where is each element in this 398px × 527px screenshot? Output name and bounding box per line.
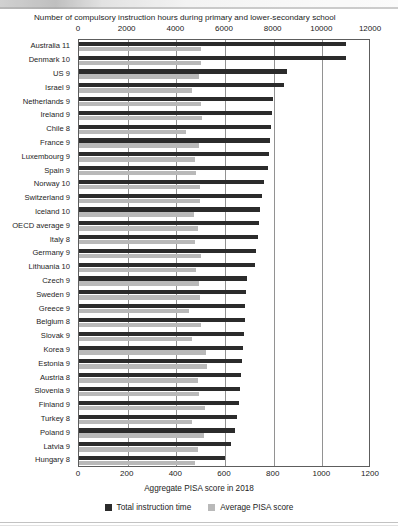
bar-average-pisa-score	[79, 254, 201, 258]
bar-average-pisa-score	[79, 47, 201, 51]
bar-total-instruction-time	[79, 56, 346, 60]
bar-row	[79, 164, 369, 178]
bottom-tick-0: 0	[76, 469, 80, 478]
bar-average-pisa-score	[79, 295, 200, 299]
category-label: OECD average 9	[12, 221, 70, 230]
chart-figure: Number of compulsory instruction hours d…	[0, 0, 398, 527]
bar-row	[79, 371, 369, 385]
bar-average-pisa-score	[79, 240, 195, 244]
bar-average-pisa-score	[79, 116, 202, 120]
bar-row	[79, 302, 369, 316]
bar-total-instruction-time	[79, 111, 272, 115]
category-label: Israel 9	[45, 83, 70, 92]
category-label: Chile 8	[46, 124, 70, 133]
category-label: Lithuania 10	[29, 262, 70, 271]
bar-total-instruction-time	[79, 125, 271, 129]
bar-row	[79, 316, 369, 330]
legend-label: Average PISA score	[220, 503, 293, 512]
bar-row	[79, 137, 369, 151]
bar-average-pisa-score	[79, 88, 192, 92]
category-label: Italy 8	[50, 235, 70, 244]
bar-row	[79, 178, 369, 192]
legend-item: Total instruction time	[105, 503, 192, 512]
bar-row	[79, 261, 369, 275]
bar-row	[79, 413, 369, 427]
bar-average-pisa-score	[79, 461, 195, 465]
bar-total-instruction-time	[79, 249, 256, 253]
bar-row	[79, 206, 369, 220]
category-label: Sweden 9	[36, 290, 70, 299]
category-label: Finland 9	[39, 400, 70, 409]
bar-total-instruction-time	[79, 359, 242, 363]
bar-total-instruction-time	[79, 152, 269, 156]
bar-total-instruction-time	[79, 304, 245, 308]
top-tick-2000: 2000	[118, 24, 136, 33]
bar-average-pisa-score	[79, 130, 186, 134]
bar-average-pisa-score	[79, 378, 198, 382]
bar-average-pisa-score	[79, 323, 201, 327]
bar-total-instruction-time	[79, 373, 241, 377]
bar-total-instruction-time	[79, 318, 245, 322]
bar-total-instruction-time	[79, 166, 268, 170]
bar-average-pisa-score	[79, 392, 199, 396]
category-label: US 9	[53, 69, 70, 78]
category-label: Czech 9	[42, 276, 70, 285]
category-label: Spain 9	[44, 166, 70, 175]
bar-average-pisa-score	[79, 281, 199, 285]
category-label: Luxembourg 9	[21, 152, 70, 161]
bar-row	[79, 344, 369, 358]
bar-average-pisa-score	[79, 226, 198, 230]
chart-title: Number of compulsory instruction hours d…	[34, 13, 374, 22]
bar-total-instruction-time	[79, 207, 260, 211]
category-label: Germany 9	[32, 248, 70, 257]
category-label: Greece 9	[39, 304, 70, 313]
category-label: Poland 9	[40, 428, 70, 437]
category-label: Switzerland 9	[24, 193, 70, 202]
category-label: Austria 8	[40, 373, 70, 382]
page-edge-rule	[0, 522, 398, 523]
category-label: Korea 9	[43, 345, 70, 354]
bar-total-instruction-time	[79, 346, 243, 350]
bar-average-pisa-score	[79, 337, 192, 341]
bar-row	[79, 289, 369, 303]
bar-average-pisa-score	[79, 309, 189, 313]
bottom-tick-600: 600	[217, 469, 230, 478]
category-label: Iceland 10	[35, 207, 70, 216]
category-label: Slovak 9	[41, 331, 70, 340]
bar-total-instruction-time	[79, 456, 225, 460]
legend-label: Total instruction time	[117, 503, 192, 512]
legend-swatch-icon	[105, 504, 112, 511]
bar-rows	[79, 40, 369, 466]
bar-average-pisa-score	[79, 447, 198, 451]
category-label: Estonia 9	[38, 359, 70, 368]
bar-row	[79, 358, 369, 372]
bar-average-pisa-score	[79, 364, 207, 368]
bar-row	[79, 95, 369, 109]
bar-average-pisa-score	[79, 143, 199, 147]
bar-row	[79, 385, 369, 399]
bottom-tick-1200: 1200	[361, 469, 379, 478]
bar-row	[79, 399, 369, 413]
category-label: Turkey 8	[41, 414, 70, 423]
bar-average-pisa-score	[79, 157, 195, 161]
page-edge-rule-secondary	[0, 525, 398, 526]
legend-swatch-icon	[208, 504, 215, 511]
bar-total-instruction-time	[79, 387, 240, 391]
category-label: France 9	[40, 138, 70, 147]
bar-total-instruction-time	[79, 194, 262, 198]
legend-item: Average PISA score	[208, 503, 293, 512]
bar-total-instruction-time	[79, 290, 246, 294]
bar-average-pisa-score	[79, 171, 196, 175]
bar-row	[79, 233, 369, 247]
bar-total-instruction-time	[79, 180, 264, 184]
top-tick-0: 0	[76, 24, 80, 33]
category-label: Latvia 9	[43, 442, 70, 451]
category-label: Australia 11	[30, 41, 70, 50]
bar-average-pisa-score	[79, 74, 199, 78]
bar-row	[79, 68, 369, 82]
bar-total-instruction-time	[79, 276, 247, 280]
category-label: Slovenia 9	[35, 386, 70, 395]
bar-row	[79, 219, 369, 233]
bar-row	[79, 275, 369, 289]
bar-row	[79, 109, 369, 123]
